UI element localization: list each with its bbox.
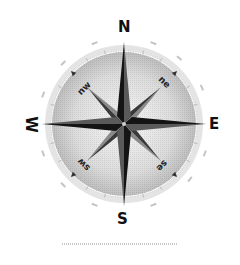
label-west: W	[23, 116, 38, 133]
label-south: S	[117, 212, 128, 227]
label-east: E	[209, 117, 219, 132]
center-pin	[122, 122, 126, 126]
label-north: N	[118, 20, 131, 35]
dotted-divider	[62, 243, 178, 245]
cardinal-points	[42, 42, 206, 206]
